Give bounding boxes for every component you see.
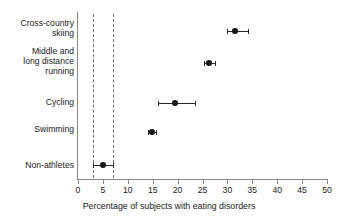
- x-axis-tick: [128, 180, 129, 184]
- data-point-marker: [172, 100, 178, 106]
- x-axis-tick: [252, 180, 253, 184]
- x-axis-tick-label: 50: [312, 185, 338, 195]
- category-label-middle-long-distance-running: Middle and long distance running: [0, 46, 74, 76]
- error-bar-cap-high: [156, 130, 157, 135]
- x-axis-tick: [277, 180, 278, 184]
- reference-line-lower: [93, 14, 94, 178]
- x-axis-title: Percentage of subjects with eating disor…: [0, 201, 338, 211]
- category-label-cross-country-skiing: Cross-country skiing: [0, 18, 74, 38]
- x-axis-tick: [178, 180, 179, 184]
- error-bar-cap-high: [248, 29, 249, 34]
- eating-disorders-dot-plot: Cross-country skiing Middle and long dis…: [0, 0, 338, 222]
- error-bar-cap-high: [113, 163, 114, 168]
- data-point-marker: [206, 60, 212, 66]
- x-axis-tick: [302, 180, 303, 184]
- error-bar-cap-high: [195, 101, 196, 106]
- data-point-marker: [232, 28, 238, 34]
- x-axis-tick: [153, 180, 154, 184]
- x-axis-tick: [327, 180, 328, 184]
- plot-area: [78, 14, 327, 178]
- x-axis-tick: [203, 180, 204, 184]
- x-axis-tick: [103, 180, 104, 184]
- error-bar-cap-high: [215, 61, 216, 66]
- data-point-marker: [149, 129, 155, 135]
- category-label-cycling: Cycling: [0, 97, 74, 107]
- error-bar-cap-low: [93, 163, 94, 168]
- reference-line-upper: [113, 14, 114, 178]
- x-axis-tick: [78, 180, 79, 184]
- y-axis-line: [77, 12, 78, 179]
- data-point-marker: [100, 162, 106, 168]
- error-bar-cap-low: [227, 29, 228, 34]
- category-label-non-athletes: Non-athletes: [0, 160, 74, 170]
- category-label-swimming: Swimming: [0, 124, 74, 134]
- error-bar-cap-low: [158, 101, 159, 106]
- x-axis-tick: [227, 180, 228, 184]
